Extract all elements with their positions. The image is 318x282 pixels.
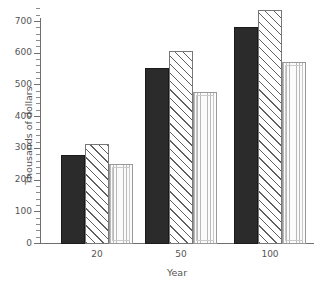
- plot-area: [40, 8, 314, 243]
- y-tick-label: 500: [6, 80, 32, 89]
- y-tick-label: 0: [6, 239, 32, 248]
- y-tick-label: 200: [6, 175, 32, 184]
- y-tick-label: 100: [6, 207, 32, 216]
- x-axis-title: Year: [40, 267, 314, 278]
- x-tick-label: 50: [151, 249, 211, 259]
- y-tick-label: 600: [6, 48, 32, 57]
- bar[interactable]: [193, 92, 217, 243]
- bar-chart: Thousands of dollars 0100200300400500600…: [0, 0, 318, 282]
- bar[interactable]: [282, 62, 306, 243]
- bar[interactable]: [109, 164, 133, 243]
- y-tick-label: 400: [6, 112, 32, 121]
- bar[interactable]: [258, 10, 282, 243]
- bar[interactable]: [61, 155, 85, 244]
- bar[interactable]: [234, 27, 258, 243]
- y-tick-label: 700: [6, 17, 32, 26]
- y-tick-major: [34, 243, 40, 244]
- bar[interactable]: [145, 68, 169, 243]
- bar[interactable]: [169, 51, 193, 244]
- bar[interactable]: [85, 144, 109, 244]
- x-tick-label: 20: [67, 249, 127, 259]
- y-tick-label: 300: [6, 143, 32, 152]
- x-tick-label: 100: [240, 249, 300, 259]
